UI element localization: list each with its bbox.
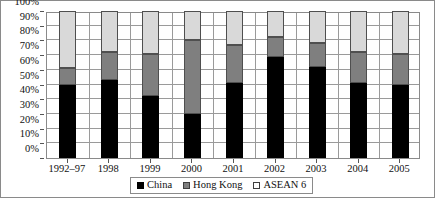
y-tick-mark [40, 158, 44, 159]
gridline-vertical [172, 13, 173, 158]
legend-item[interactable]: Hong Kong [183, 179, 242, 191]
x-tick-label: 2001 [223, 163, 244, 175]
legend-item[interactable]: ASEAN 6 [253, 179, 306, 191]
legend-item[interactable]: China [137, 179, 172, 191]
chart-legend: ChinaHong KongASEAN 6 [130, 177, 313, 194]
y-tick-label: 60% [20, 56, 39, 66]
y-tick-label: 20% [20, 115, 39, 125]
plot-area [46, 12, 420, 159]
y-tick-label: 100% [15, 0, 40, 7]
bar-segment-hong-kong [392, 54, 409, 85]
gray-square-icon [183, 182, 190, 189]
y-tick-mark [40, 70, 44, 71]
bar-segment-china [309, 67, 326, 158]
bar-segment-hong-kong [309, 43, 326, 67]
bar-stack [184, 13, 201, 158]
bar-segment-china [59, 85, 76, 159]
gridline-vertical [338, 13, 339, 158]
bar-segment-china [184, 114, 201, 158]
legend-label: ASEAN 6 [263, 179, 306, 191]
bar-group [350, 13, 367, 158]
y-tick-mark [40, 55, 44, 56]
x-tick-label: 2000 [181, 163, 202, 175]
y-tick-mark [40, 26, 44, 27]
black-square-icon [137, 182, 144, 189]
bar-segment-asean-6 [101, 11, 118, 52]
bar-segment-hong-kong [350, 52, 367, 83]
bar-segment-asean-6 [267, 11, 284, 37]
legend-label: China [147, 179, 172, 191]
y-tick-label: 70% [20, 41, 39, 51]
y-tick-label: 0% [25, 144, 39, 154]
x-tick-label: 1998 [98, 163, 119, 175]
bar-group [309, 13, 326, 158]
gridline-vertical [379, 13, 380, 158]
x-axis: 1992–9719981999200020012002200320042005 [46, 159, 420, 175]
bar-segment-hong-kong [142, 54, 159, 97]
bar-stack [142, 13, 159, 158]
bar-segment-hong-kong [267, 37, 284, 56]
y-tick-mark [40, 99, 44, 100]
y-tick-mark [40, 114, 44, 115]
bar-segment-china [350, 83, 367, 158]
y-axis: 0%10%20%30%40%50%60%70%80%90%100% [1, 12, 44, 159]
x-tick-label: 2004 [347, 163, 368, 175]
bar-segment-china [226, 83, 243, 158]
x-tick-label: 2002 [264, 163, 285, 175]
bar-stack [350, 13, 367, 158]
x-tick-label: 1992–97 [48, 163, 85, 175]
bar-segment-asean-6 [392, 11, 409, 54]
bar-segment-hong-kong [59, 68, 76, 84]
x-tick-label: 1999 [139, 163, 160, 175]
bar-segment-asean-6 [350, 11, 367, 52]
bar-segment-hong-kong [184, 40, 201, 114]
y-tick-label: 10% [20, 129, 39, 139]
bar-segment-asean-6 [59, 11, 76, 68]
bar-segment-china [101, 80, 118, 158]
gridline-vertical [213, 13, 214, 158]
bar-group [59, 13, 76, 158]
chart-figure: 0%10%20%30%40%50%60%70%80%90%100% 1992–9… [0, 0, 435, 198]
y-tick-mark [40, 40, 44, 41]
y-tick-label: 40% [20, 85, 39, 95]
gridline-vertical [255, 13, 256, 158]
bar-stack [392, 13, 409, 158]
bar-segment-asean-6 [309, 11, 326, 43]
gridline-vertical [130, 13, 131, 158]
bar-group [142, 13, 159, 158]
y-tick-mark [40, 85, 44, 86]
bar-segment-asean-6 [184, 11, 201, 40]
bar-stack [101, 13, 118, 158]
bar-stack [226, 13, 243, 158]
bar-segment-asean-6 [226, 11, 243, 45]
gridline-vertical [89, 13, 90, 158]
bar-group [226, 13, 243, 158]
bar-stack [267, 13, 284, 158]
y-tick-mark [40, 129, 44, 130]
bar-group [392, 13, 409, 158]
y-tick-mark [40, 11, 44, 12]
y-tick-mark [40, 143, 44, 144]
bar-group [267, 13, 284, 158]
y-tick-label: 30% [20, 100, 39, 110]
white-square-icon [253, 182, 260, 189]
x-tick-label: 2005 [389, 163, 410, 175]
gridline-vertical [296, 13, 297, 158]
y-tick-label: 80% [20, 26, 39, 36]
bar-stack [59, 13, 76, 158]
bar-segment-china [392, 85, 409, 159]
y-tick-label: 90% [20, 12, 39, 22]
bar-segment-asean-6 [142, 11, 159, 54]
bar-segment-china [267, 57, 284, 158]
y-tick-label: 50% [20, 71, 39, 81]
bar-group [101, 13, 118, 158]
legend-label: Hong Kong [193, 179, 242, 191]
bar-segment-hong-kong [101, 52, 118, 80]
bar-group [184, 13, 201, 158]
bar-segment-hong-kong [226, 45, 243, 83]
bar-segment-china [142, 96, 159, 158]
bar-stack [309, 13, 326, 158]
x-tick-label: 2003 [306, 163, 327, 175]
